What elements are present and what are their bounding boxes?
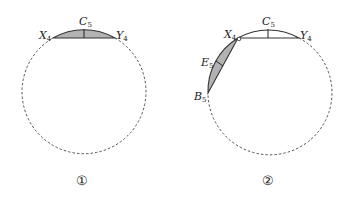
label-y4-fig1: Y4 [116,29,128,43]
dashed-circle-1 [22,38,146,154]
label-c5-fig2: C5 [262,15,275,29]
point-x4-marker [237,37,241,41]
figure-2: X4 C5 Y4 E5 B5 ② [193,15,332,188]
caption-2: ② [262,173,274,188]
label-x4-fig1: X4 [38,29,52,43]
label-y4-fig2: Y4 [300,29,312,43]
figure-1: X4 C5 Y4 ① [22,15,146,188]
diagram-canvas: X4 C5 Y4 ① X4 C5 Y4 E5 B5 ② [0,0,349,201]
label-c5-fig1: C5 [79,15,92,29]
label-b5-fig2: B5 [193,90,207,104]
caption-1: ① [76,173,88,188]
label-x4-fig2: X4 [223,28,237,42]
label-e5-fig2: E5 [200,56,214,70]
